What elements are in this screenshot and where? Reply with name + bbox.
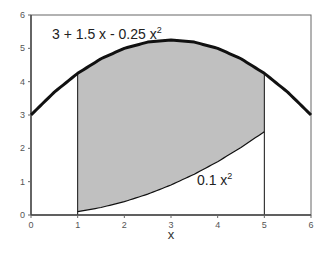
y-tick-label: 0 [20, 210, 25, 220]
x-tick-label: 6 [308, 220, 313, 230]
x-axis-title: x [168, 227, 175, 242]
x-tick-label: 4 [215, 220, 220, 230]
upper-curve-label: 3 + 1.5 x - 0.25 x2 [52, 25, 162, 42]
chart: 0123456 0123456 x 3 + 1.5 x - 0.25 x2 0.… [0, 0, 328, 253]
y-tick-label: 5 [20, 43, 25, 53]
y-tick-label: 3 [20, 110, 25, 120]
y-tick-label: 1 [20, 177, 25, 187]
y-tick-label: 6 [20, 10, 25, 20]
x-tick-label: 0 [28, 220, 33, 230]
y-tick-label: 2 [20, 143, 25, 153]
x-tick-label: 1 [75, 220, 80, 230]
lower-curve-label: 0.1 x2 [197, 171, 232, 188]
x-tick-label: 2 [122, 220, 127, 230]
x-tick-label: 5 [262, 220, 267, 230]
y-tick-label: 4 [20, 77, 25, 87]
